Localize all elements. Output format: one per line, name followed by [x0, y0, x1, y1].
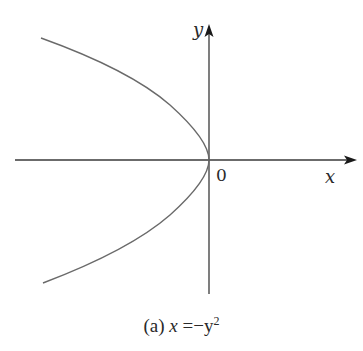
caption-lhs: x: [169, 315, 177, 336]
graph: y 0 x: [0, 0, 363, 351]
origin-label: 0: [216, 165, 227, 185]
x-axis-label: x: [325, 166, 335, 187]
caption-rhs: −y: [193, 315, 213, 336]
figure-caption: (a) x =−y2: [0, 314, 363, 337]
caption-equals: =: [183, 315, 194, 336]
caption-prefix: (a): [144, 315, 165, 336]
caption-exponent: 2: [213, 314, 219, 328]
y-axis-label: y: [192, 19, 204, 40]
